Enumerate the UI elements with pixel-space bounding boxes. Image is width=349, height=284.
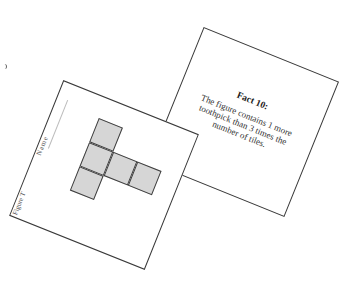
- fact-card: Fact 10: The figure contains 1 more toot…: [149, 27, 339, 217]
- figure-label: Figure T: [11, 191, 27, 216]
- name-line: [48, 100, 68, 149]
- stray-mark: [2, 64, 7, 69]
